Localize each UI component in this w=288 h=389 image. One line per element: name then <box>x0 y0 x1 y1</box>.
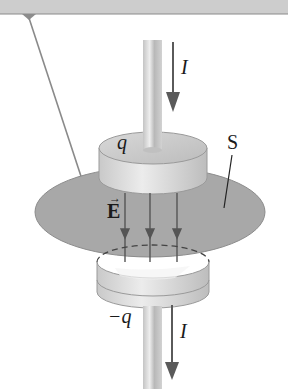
surface-label: S <box>227 131 238 154</box>
current-label-top: I <box>181 56 188 79</box>
top-bar <box>0 0 288 14</box>
current-arrow-bottom <box>165 362 179 380</box>
bottom-plate-side <box>97 262 209 308</box>
field-label: E <box>107 200 120 223</box>
diagram-graphic <box>0 0 288 389</box>
charge-label-top: q <box>117 131 127 154</box>
top-wire <box>143 40 162 140</box>
bottom-wire <box>143 306 162 389</box>
charge-label-bottom: −q <box>108 305 132 328</box>
current-arrow-top <box>166 92 180 112</box>
capacitor-diagram: I q S → E −q I <box>0 0 288 389</box>
current-label-bottom: I <box>180 320 187 343</box>
